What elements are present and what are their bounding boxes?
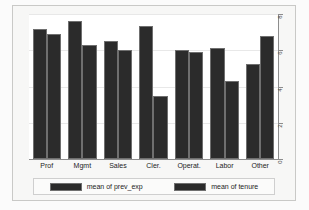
bar-group bbox=[68, 14, 96, 159]
legend-swatch-prev-exp bbox=[50, 183, 82, 191]
bar-group bbox=[104, 14, 132, 159]
bar bbox=[68, 21, 82, 159]
y-tick-label: 2 bbox=[277, 124, 283, 127]
x-axis-label: Sales bbox=[100, 162, 136, 169]
plot-region bbox=[29, 14, 278, 159]
bar bbox=[153, 96, 167, 159]
x-axis-label: Mgmt bbox=[65, 162, 101, 169]
x-axis-line bbox=[29, 159, 279, 160]
legend-entry-prev-exp: mean of prev_exp bbox=[50, 183, 143, 191]
bar-group bbox=[139, 14, 167, 159]
bar bbox=[210, 48, 224, 159]
legend-label-tenure: mean of tenure bbox=[211, 183, 258, 190]
x-axis-label: Labor bbox=[207, 162, 243, 169]
bar bbox=[175, 50, 189, 159]
legend-swatch-tenure bbox=[174, 183, 206, 191]
bar bbox=[260, 36, 274, 159]
legend-entry-tenure: mean of tenure bbox=[174, 183, 258, 191]
x-axis-label: Operat. bbox=[171, 162, 207, 169]
bar bbox=[246, 64, 260, 159]
y-tick-label: 8 bbox=[277, 15, 283, 18]
legend-label-prev-exp: mean of prev_exp bbox=[87, 183, 143, 190]
bar bbox=[118, 50, 132, 159]
bar-group bbox=[246, 14, 274, 159]
screenshot-canvas: 02468 ProfMgmtSalesCler.Operat.LaborOthe… bbox=[0, 0, 309, 210]
bar bbox=[139, 26, 153, 159]
bar-group bbox=[175, 14, 203, 159]
chart-legend: mean of prev_exp mean of tenure bbox=[33, 178, 275, 195]
x-axis-label: Other bbox=[242, 162, 278, 169]
bar bbox=[82, 45, 96, 159]
y-tick-label: 4 bbox=[277, 88, 283, 91]
bar bbox=[225, 81, 239, 159]
bar-group bbox=[33, 14, 61, 159]
graph-frame: 02468 ProfMgmtSalesCler.Operat.LaborOthe… bbox=[12, 5, 296, 201]
bar bbox=[104, 41, 118, 159]
y-tick-label: 6 bbox=[277, 52, 283, 55]
bar bbox=[189, 52, 203, 159]
bar-group bbox=[210, 14, 238, 159]
bars-layer bbox=[29, 14, 278, 159]
bar bbox=[33, 29, 47, 160]
x-axis-label: Prof bbox=[29, 162, 65, 169]
x-axis-label: Cler. bbox=[136, 162, 172, 169]
bar bbox=[47, 34, 61, 159]
